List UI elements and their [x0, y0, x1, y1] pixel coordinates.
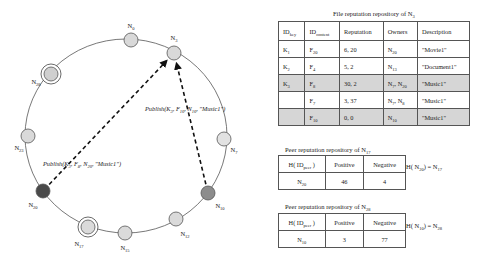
node-circle — [124, 33, 138, 47]
peer-repo-28-title: Peer reputation repository of N28 — [285, 203, 370, 210]
cell-owners: N10 — [383, 109, 417, 126]
node-circle — [217, 132, 231, 146]
table-row: N10 3 77 — [279, 231, 406, 248]
cell-negative: 77 — [364, 231, 406, 248]
cell-owners: N7, N8 — [383, 92, 417, 109]
header-id-content: IDcontent — [305, 22, 340, 41]
cell-description: "Music1" — [417, 109, 469, 126]
table-row: F100, 0N10"Music1" — [279, 109, 470, 126]
node-circle — [21, 129, 35, 143]
header-positive: Positive — [325, 214, 364, 231]
ring-nodes: N0N3N7N10N12N15N17N20N23N28 — [14, 22, 238, 253]
node-label: N17 — [74, 240, 84, 249]
node-n23: N23 — [14, 129, 35, 153]
publish-label-n10: Publish(K3, F10, N10, "Music1") — [145, 105, 225, 112]
cell-positive: 3 — [325, 231, 364, 248]
cell-id-key — [279, 92, 305, 109]
node-n3: N3 — [167, 34, 181, 60]
cell-reputation: 5, 2 — [340, 58, 384, 75]
node-label: N15 — [120, 244, 130, 253]
table-row: K2F45, 2N13"Document1" — [279, 58, 470, 75]
node-n0: N0 — [124, 22, 138, 47]
table-row: N20 46 4 — [279, 173, 406, 190]
cell-id-key: K2 — [279, 58, 305, 75]
cell-reputation: 3, 37 — [340, 92, 384, 109]
node-n20: N20 — [28, 184, 50, 210]
node-n28: N28 — [31, 64, 61, 87]
cell-reputation: 30, 2 — [340, 75, 384, 92]
header-reputation: Reputation — [340, 22, 384, 41]
peer-repo-17-title: Peer reputation repository of N17 — [285, 146, 370, 153]
header-hash-peer: H( IDpeer ) — [279, 156, 326, 173]
file-reputation-table: IDkey IDcontent Reputation Owners Descri… — [278, 21, 470, 126]
table-header-row: IDkey IDcontent Reputation Owners Descri… — [279, 22, 470, 41]
node-label: N3 — [171, 34, 179, 43]
table-header-row: H( IDpeer ) Positive Negative — [279, 214, 406, 231]
header-negative: Negative — [364, 156, 406, 173]
cell-id-key — [279, 109, 305, 126]
node-label: N10 — [215, 202, 225, 211]
header-id-key: IDkey — [279, 22, 305, 41]
node-label: N0 — [128, 22, 136, 31]
publish-arrow-n10-to-n3 — [177, 64, 206, 185]
node-circle — [36, 184, 50, 198]
cell-owners: N7, N20 — [383, 75, 417, 92]
peer-reputation-table-n28: H( IDpeer ) Positive Negative N10 3 77 — [278, 213, 406, 248]
node-n15: N15 — [118, 226, 132, 253]
cell-owners: N13 — [383, 58, 417, 75]
node-n10: N10 — [201, 186, 225, 211]
file-repo-title: File reputation repository of N3 — [333, 10, 415, 17]
header-description: Description — [417, 22, 469, 41]
cell-peer: N10 — [279, 231, 326, 248]
table-row: K3F830, 2N7, N20"Music1" — [279, 75, 470, 92]
table-header-row: H( IDpeer ) Positive Negative — [279, 156, 406, 173]
cell-id-key: K1 — [279, 41, 305, 58]
cell-id-content: F4 — [305, 58, 340, 75]
node-label: N20 — [28, 201, 38, 210]
node-label: N23 — [14, 144, 24, 153]
cell-id-content: F20 — [305, 41, 340, 58]
node-circle — [201, 186, 215, 200]
cell-id-content: F8 — [305, 75, 340, 92]
cell-id-key: K3 — [279, 75, 305, 92]
table-row: K1F206, 20N20"Movie1" — [279, 41, 470, 58]
cell-description: "Document1" — [417, 58, 469, 75]
node-label: N12 — [180, 230, 189, 239]
table-row: F73, 37N7, N8"Music1" — [279, 92, 470, 109]
cell-reputation: 6, 20 — [340, 41, 384, 58]
node-circle — [44, 67, 58, 81]
node-circle — [167, 46, 181, 60]
peer-reputation-table-n17: H( IDpeer ) Positive Negative N20 46 4 — [278, 155, 406, 190]
cell-description: "Music1" — [417, 75, 469, 92]
node-n12: N12 — [169, 212, 190, 239]
dht-ring-diagram: N0N3N7N10N12N15N17N20N23N28 — [0, 0, 260, 271]
cell-id-content: F7 — [305, 92, 340, 109]
node-n7: N7 — [217, 132, 238, 155]
hash-mapping-n28: H( N10) = N28 — [406, 222, 442, 229]
header-negative: Negative — [364, 214, 406, 231]
cell-negative: 4 — [364, 173, 406, 190]
cell-reputation: 0, 0 — [340, 109, 384, 126]
cell-description: "Movie1" — [417, 41, 469, 58]
cell-description: "Music1" — [417, 92, 469, 109]
node-circle — [118, 226, 132, 240]
node-label: N28 — [31, 78, 41, 87]
node-label: N7 — [231, 146, 239, 155]
cell-owners: N20 — [383, 41, 417, 58]
header-owners: Owners — [383, 22, 417, 41]
cell-peer: N20 — [279, 173, 326, 190]
cell-positive: 46 — [325, 173, 364, 190]
node-circle — [81, 220, 95, 234]
cell-id-content: F10 — [305, 109, 340, 126]
node-circle — [169, 212, 183, 226]
header-positive: Positive — [325, 156, 364, 173]
publish-label-n20: Publish(K3, F8, N20, "Music1") — [43, 160, 121, 167]
hash-mapping-n17: H( N20) = N17 — [406, 163, 442, 170]
header-hash-peer: H( IDpeer ) — [279, 214, 326, 231]
